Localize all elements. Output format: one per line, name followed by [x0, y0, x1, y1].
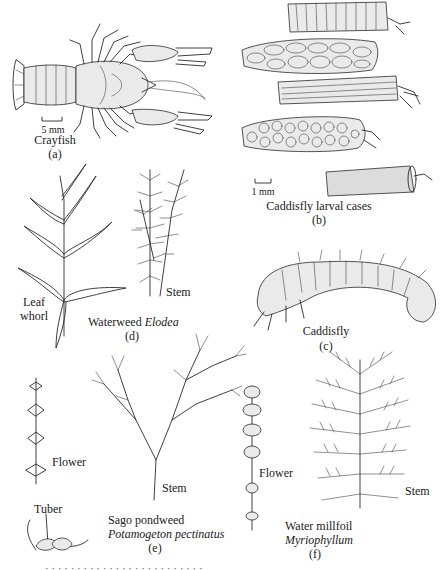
- annotation-sago-flower: Flower: [52, 456, 86, 469]
- scale-label-1mm: 1 mm: [250, 185, 276, 198]
- panel-c-title: Caddisfly: [296, 325, 356, 338]
- millfoil-flower-illustration: [243, 386, 261, 530]
- annotation-tuber: Tuber: [34, 503, 62, 516]
- caddisfly-cases-illustration: [242, 2, 432, 196]
- panel-e-species: Potamogeton pectinatus: [108, 528, 224, 541]
- panel-b-title: Caddisfly larval cases: [254, 200, 384, 213]
- sago-stem-illustration: [92, 334, 246, 500]
- annotation-sago-stem: Stem: [162, 482, 187, 495]
- annotation-leaf-whorl-1: Leaf: [16, 296, 52, 309]
- panel-f-genus: Myriophyllum: [285, 534, 353, 547]
- panel-d-common-name: Waterweed: [88, 315, 142, 329]
- elodea-stem-illustration: [132, 170, 188, 296]
- panel-a-label: (a): [25, 148, 85, 161]
- scale-bar-5mm: [42, 117, 62, 121]
- annotation-leaf-whorl-2: whorl: [16, 310, 52, 323]
- panel-d-title: Waterweed Elodea: [88, 316, 179, 329]
- panel-d-label: (d): [112, 330, 152, 343]
- scale-bar-1mm: [255, 179, 271, 183]
- figure-caption-cutoff: · · · · · · · · · · · · · · · · · · · · …: [45, 562, 405, 570]
- annotation-millfoil-flower: Flower: [259, 467, 293, 480]
- panel-a-title: Crayfish: [25, 134, 85, 147]
- annotation-elodea-stem: Stem: [166, 286, 191, 299]
- panel-d-genus: Elodea: [145, 315, 179, 329]
- caddisfly-larva-illustration: [254, 250, 436, 330]
- annotation-millfoil-stem: Stem: [405, 485, 430, 498]
- panel-f-common-name: Water millfoil: [285, 520, 352, 533]
- sago-flower-illustration: [26, 378, 46, 484]
- panel-f-label: (f): [300, 548, 330, 561]
- millfoil-stem-illustration: [310, 352, 410, 508]
- figure-illustrations: [0, 0, 443, 570]
- panel-e-label: (e): [140, 542, 170, 555]
- panel-b-label: (b): [254, 214, 384, 227]
- sago-tuber-illustration: [28, 514, 88, 550]
- panel-c-label: (c): [296, 340, 356, 353]
- panel-e-common-name: Sago pondweed: [108, 514, 184, 527]
